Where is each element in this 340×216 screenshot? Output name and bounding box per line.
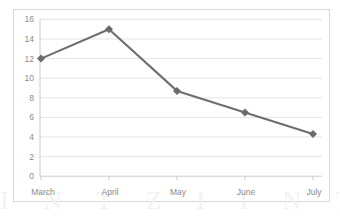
y-tick-label-12: 12 [25,54,35,64]
y-tick-label-8: 8 [29,93,34,103]
y-tick-label-2: 2 [29,152,34,162]
y-tick-label-6: 6 [29,112,34,122]
x-tick-label-july: July [306,187,322,197]
x-tick-label-march: March [31,187,55,197]
y-tick-label-4: 4 [29,132,34,142]
line-chart-figure: I N T Z I I N T Z 16 14 12 10 8 [0,0,340,216]
y-tick-label-0: 0 [29,171,34,181]
series-1-line [41,29,313,134]
chart-plot-area: 16 14 12 10 8 6 4 2 0 March April May Ju… [0,0,340,216]
x-axis-tick-labels: March April May June July [31,187,322,197]
data-point-march [37,55,45,63]
y-axis-tick-labels: 16 14 12 10 8 6 4 2 0 [25,14,35,181]
x-tick-label-april: April [101,187,118,197]
y-tick-label-14: 14 [25,34,35,44]
x-tick-label-june: June [237,187,256,197]
x-tick-label-may: May [170,187,187,197]
y-tick-label-10: 10 [25,73,35,83]
x-tickmarks [41,176,313,180]
y-tick-label-16: 16 [25,14,35,24]
data-point-june [241,109,249,117]
